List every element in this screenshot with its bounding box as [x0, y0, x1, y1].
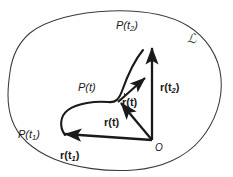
label-point-t2-text: P(t: [116, 19, 130, 31]
vector-r-t-arrow: [121, 103, 152, 140]
label-vector-r-t2-paren: ): [176, 81, 180, 93]
label-vector-rdot-t-text: r(t): [122, 96, 137, 108]
label-vector-r-t1: r(t1): [60, 150, 79, 163]
label-vector-r-t1-paren: ): [76, 149, 80, 161]
vector-calculus-figure: P(t2) P(t) P(t1) r(t2) r(t) r(t1) r(t) O…: [0, 0, 233, 177]
label-point-t2: P(t2): [116, 20, 138, 33]
label-vector-r-t2: r(t2): [160, 82, 179, 95]
label-point-t1-paren: ): [36, 128, 40, 140]
label-point-t1-text: P(t: [18, 128, 32, 140]
label-vector-rdot-t: r(t): [122, 97, 137, 108]
label-vector-r-t1-text: r(t: [60, 149, 72, 161]
label-vector-r-t: r(t): [104, 117, 119, 128]
label-vector-r-t2-text: r(t: [160, 81, 172, 93]
label-point-t2-paren: ): [134, 19, 138, 31]
vector-r-t1-arrow: [65, 134, 152, 140]
label-origin: O: [155, 143, 163, 153]
label-domain: ℒ: [187, 32, 196, 45]
label-point-t: P(t): [78, 82, 96, 93]
overdot-icon: [124, 93, 126, 95]
label-point-t1: P(t1): [18, 129, 40, 142]
trajectory-curve: [61, 50, 143, 135]
